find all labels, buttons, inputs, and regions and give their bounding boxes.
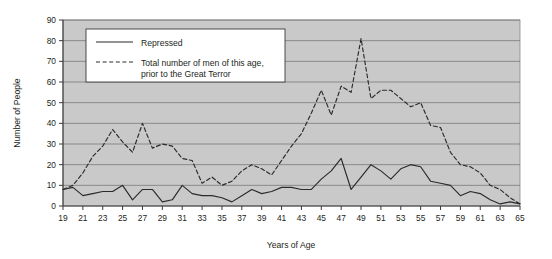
y-axis-title: Number of People (12, 78, 22, 147)
chart-figure: 0102030405060708090 19212325272931333537… (0, 0, 552, 259)
legend-label-total-men-line2: prior to the Great Terror (141, 69, 231, 79)
y-tick-label: 80 (47, 36, 57, 46)
x-tick-label: 33 (197, 213, 207, 223)
x-tick-label: 53 (396, 213, 406, 223)
y-tick-label: 0 (51, 201, 56, 211)
x-tick-label: 57 (436, 213, 446, 223)
x-tick-label: 47 (337, 213, 347, 223)
y-axis-ticks: 0102030405060708090 (47, 15, 63, 211)
legend-label-total-men-line1: Total number of men of this age, (141, 58, 264, 68)
x-tick-label: 27 (138, 213, 148, 223)
x-tick-label: 59 (456, 213, 466, 223)
chart-legend: Repressed Total number of men of this ag… (86, 29, 285, 82)
x-tick-label: 25 (118, 213, 128, 223)
x-axis-title: Years of Age (267, 240, 316, 250)
y-tick-label: 70 (47, 56, 57, 66)
x-tick-label: 49 (356, 213, 366, 223)
y-tick-label: 10 (47, 180, 57, 190)
x-tick-label: 45 (317, 213, 327, 223)
x-tick-label: 39 (257, 213, 267, 223)
x-axis-ticks: 1921232527293133353739414345474951535557… (58, 206, 525, 223)
x-tick-label: 61 (476, 213, 486, 223)
x-tick-label: 19 (58, 213, 68, 223)
x-tick-label: 21 (78, 213, 88, 223)
legend-label-repressed: Repressed (141, 38, 183, 48)
y-tick-label: 40 (47, 118, 57, 128)
y-tick-label: 20 (47, 160, 57, 170)
x-tick-label: 65 (515, 213, 525, 223)
x-tick-label: 63 (495, 213, 505, 223)
y-tick-label: 30 (47, 139, 57, 149)
x-tick-label: 37 (237, 213, 247, 223)
x-tick-label: 31 (178, 213, 188, 223)
x-tick-label: 35 (217, 213, 227, 223)
y-tick-label: 60 (47, 77, 57, 87)
x-tick-label: 43 (297, 213, 307, 223)
line-chart: 0102030405060708090 19212325272931333537… (0, 0, 552, 259)
y-tick-label: 50 (47, 98, 57, 108)
y-tick-label: 90 (47, 15, 57, 25)
x-tick-label: 29 (158, 213, 168, 223)
x-tick-label: 51 (376, 213, 386, 223)
x-tick-label: 55 (416, 213, 426, 223)
x-tick-label: 41 (277, 213, 287, 223)
x-tick-label: 23 (98, 213, 108, 223)
